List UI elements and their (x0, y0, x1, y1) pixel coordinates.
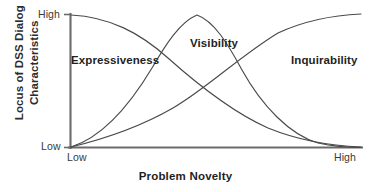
curve-inquirability (71, 14, 361, 147)
y-axis-title-line-2: Characteristics (27, 0, 42, 135)
y-axis-title: Locus of DSS Dialog Characteristics (12, 0, 41, 135)
y-axis-tick-label-low: Low (41, 140, 61, 152)
x-axis-tick-label-high: High (334, 151, 356, 163)
x-axis-tick-label-low: Low (67, 151, 87, 163)
chart-figure: Locus of DSS Dialog Characteristics High… (0, 0, 371, 192)
curve-label-expressiveness: Expressiveness (71, 54, 159, 66)
y-axis-title-line-1: Locus of DSS Dialog (12, 0, 27, 135)
curve-visibility (71, 15, 361, 148)
chart-plot-area (0, 0, 371, 192)
curve-label-visibility: Visibility (190, 37, 238, 49)
curve-expressiveness (71, 15, 361, 147)
curve-label-inquirability: Inquirability (291, 54, 357, 66)
y-axis-tick-label-high: High (38, 8, 60, 20)
x-axis-title: Problem Novelty (0, 170, 371, 182)
